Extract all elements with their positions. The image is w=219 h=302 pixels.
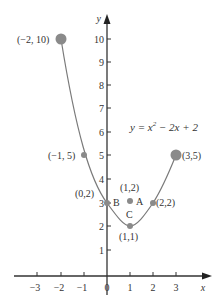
point-m2-10 [56,34,67,45]
point-1-2-a [127,198,133,204]
y-axis-label: y [96,13,102,24]
point-3-5 [171,150,182,161]
tag-b: B [113,197,120,208]
equation-prefix: y = x [129,121,153,133]
x-tick-label: −3 [30,282,41,293]
label-1-1: (1,1) [119,231,138,243]
equation-label: y = x2 − 2x + 2 [129,120,198,133]
y-tick-label: 6 [99,127,104,138]
y-tick-label: 4 [99,174,104,185]
point-1-1-c [127,223,133,229]
y-tick-label: 10 [94,34,104,45]
x-axis-arrow-icon [202,273,212,280]
y-tick-label: 2 [99,221,104,232]
y-tick-label: 5 [99,150,104,161]
x-tick-label: 1 [128,282,133,293]
x-tick-labels: −3 −2 −1 0 1 2 3 x [30,282,206,293]
equation-suffix: − 2x + 2 [156,121,198,133]
y-axis-arrow-icon [104,14,111,24]
point-m1-5 [81,152,87,158]
x-axis-label: x [200,282,206,293]
label-3-5: (3,5) [182,150,201,162]
y-tick-label: 1 [99,245,104,256]
x-tick-label: 2 [151,282,156,293]
y-tick-labels: 1 2 3 4 5 6 7 8 9 10 y [94,13,104,256]
y-tick-label: 9 [99,57,104,68]
tag-a: A [136,196,144,207]
label-m2-10: (−2, 10) [17,34,49,46]
x-tick-label: −2 [54,282,65,293]
y-tick-label: 3 [99,198,104,209]
x-tick-label: 3 [174,282,179,293]
x-tick-label: 0 [105,282,110,293]
y-tick-label: 8 [99,80,104,91]
parabola-chart: −3 −2 −1 0 1 2 3 x 1 2 3 4 5 6 7 8 9 10 … [0,0,219,302]
point-0-2-b [104,200,110,206]
label-m1-5: (−1, 5) [48,150,75,162]
y-tick-label: 7 [99,103,104,114]
label-0-2: (0,2) [75,188,94,200]
tag-c: C [126,209,133,220]
x-tick-label: −1 [77,282,88,293]
label-1-2: (1,2) [120,182,139,194]
point-labels: (−2, 10) (−1, 5) (0,2) B (1,2) A C (1,1)… [17,34,201,243]
label-2-2: (2,2) [156,197,175,209]
